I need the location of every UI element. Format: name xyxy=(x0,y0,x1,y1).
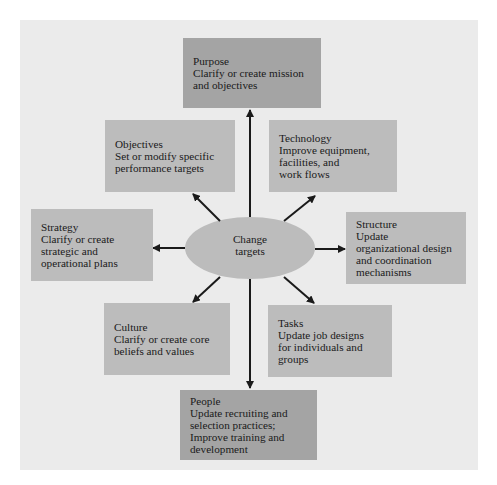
node-objectives: Objectives Set or modify specific perfor… xyxy=(105,120,235,192)
node-title: Strategy xyxy=(41,221,143,233)
node-desc: Update recruiting and selection practice… xyxy=(190,407,307,455)
node-title: Culture xyxy=(114,321,220,333)
node-desc: Clarify or create core beliefs and value… xyxy=(114,333,220,357)
node-title: Technology xyxy=(279,132,387,144)
node-culture: Culture Clarify or create core beliefs a… xyxy=(104,303,230,375)
node-title: People xyxy=(190,395,307,407)
node-strategy: Strategy Clarify or create strategic and… xyxy=(31,209,153,281)
node-technology: Technology Improve equipment, facilities… xyxy=(269,120,397,192)
node-desc: Clarify or create strategic and operatio… xyxy=(41,233,143,269)
arrow-to-culture xyxy=(193,277,220,302)
node-desc: Update organizational design and coordin… xyxy=(356,230,456,278)
node-desc: Clarify or create mission and objectives xyxy=(193,67,311,91)
arrow-to-technology xyxy=(284,196,315,221)
node-title: Tasks xyxy=(278,317,382,329)
node-title: Purpose xyxy=(193,55,311,67)
node-desc: Set or modify specific performance targe… xyxy=(115,150,225,174)
node-title: Objectives xyxy=(115,138,225,150)
node-people: People Update recruiting and selection p… xyxy=(180,390,317,460)
node-purpose: Purpose Clarify or create mission and ob… xyxy=(183,38,321,108)
arrow-to-tasks xyxy=(284,277,314,303)
node-title: Structure xyxy=(356,218,456,230)
node-structure: Structure Update organizational design a… xyxy=(346,212,466,284)
node-desc: Update job designs for individuals and g… xyxy=(278,329,382,365)
center-label: Change targets xyxy=(185,233,315,257)
node-desc: Improve equipment, facilities, and work … xyxy=(279,144,387,180)
node-tasks: Tasks Update job designs for individuals… xyxy=(268,305,392,377)
arrow-to-objectives xyxy=(193,194,220,221)
